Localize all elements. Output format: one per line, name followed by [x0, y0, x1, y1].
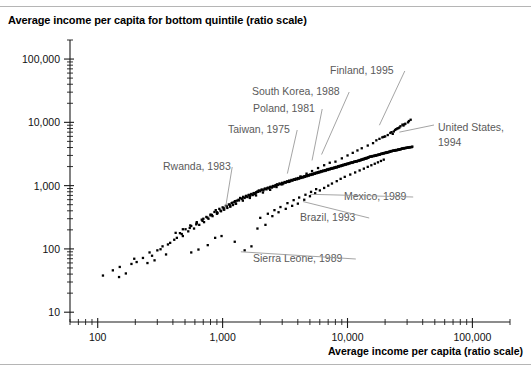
data-point	[195, 223, 197, 225]
data-point	[176, 237, 178, 239]
data-point	[255, 194, 257, 196]
data-point	[167, 243, 169, 245]
data-point	[247, 194, 249, 196]
data-point	[201, 220, 203, 222]
data-point	[209, 214, 211, 216]
data-point	[359, 169, 361, 171]
data-point	[187, 230, 189, 232]
data-point	[112, 269, 114, 271]
data-point	[410, 119, 412, 121]
data-point	[250, 245, 252, 247]
data-point	[356, 149, 358, 151]
data-point	[232, 204, 234, 206]
data-point	[156, 249, 158, 251]
data-point	[197, 248, 199, 250]
data-point	[371, 155, 373, 157]
data-point	[344, 176, 346, 178]
data-point	[383, 159, 385, 161]
data-point	[285, 208, 287, 210]
data-point	[374, 163, 376, 165]
data-point	[281, 183, 283, 185]
data-point	[331, 182, 333, 184]
data-point	[146, 262, 148, 264]
data-point	[340, 178, 342, 180]
data-point	[119, 266, 121, 268]
data-point	[375, 139, 377, 141]
data-point	[326, 169, 328, 171]
data-point	[151, 255, 153, 257]
data-point	[267, 213, 269, 215]
data-point	[403, 123, 405, 125]
data-point	[390, 150, 392, 152]
data-point	[305, 175, 307, 177]
data-point	[284, 181, 286, 183]
data-point	[260, 189, 262, 191]
data-point	[392, 133, 394, 135]
data-point	[262, 191, 264, 193]
data-point	[159, 248, 161, 250]
data-point	[153, 259, 155, 261]
data-point	[370, 164, 372, 166]
data-point	[369, 156, 371, 158]
data-point	[327, 185, 329, 187]
data-point	[238, 199, 240, 201]
data-point	[293, 199, 295, 201]
data-point	[407, 147, 409, 149]
annotation-label: South Korea, 1988	[252, 85, 340, 97]
data-point	[263, 188, 265, 190]
annotation-leader-line	[322, 92, 350, 155]
data-point	[249, 197, 251, 199]
data-point	[297, 203, 299, 205]
data-point	[102, 274, 104, 276]
data-point	[294, 178, 296, 180]
data-point	[383, 136, 385, 138]
data-point	[269, 189, 271, 191]
data-point	[136, 261, 138, 263]
data-point	[214, 237, 216, 239]
annotation-label: Poland, 1981	[253, 102, 315, 114]
data-point	[411, 146, 413, 148]
data-point	[303, 199, 305, 201]
data-point	[405, 147, 407, 149]
data-point	[334, 161, 336, 163]
data-point	[220, 235, 222, 237]
annotation-label: 1994	[438, 136, 462, 148]
annotation-label: Rwanda, 1983	[163, 160, 231, 172]
data-point	[206, 217, 208, 219]
data-point	[279, 183, 281, 185]
data-point	[133, 258, 135, 260]
data-point	[286, 202, 288, 204]
data-point	[273, 209, 275, 211]
data-point	[409, 146, 411, 148]
data-point	[367, 166, 369, 168]
data-point	[341, 157, 343, 159]
data-point	[190, 251, 192, 253]
annotation-leader-line	[379, 71, 404, 125]
y-tick-label: 10	[48, 306, 60, 318]
data-point	[304, 194, 306, 196]
data-point	[380, 160, 382, 162]
y-axis: 101001,00010,000100,000	[22, 40, 74, 322]
data-point	[242, 200, 244, 202]
data-point	[329, 162, 331, 164]
data-point	[323, 187, 325, 189]
data-point	[279, 206, 281, 208]
data-point	[354, 171, 356, 173]
data-point	[231, 202, 233, 204]
data-point	[298, 196, 300, 198]
data-point	[182, 228, 184, 230]
data-point	[317, 167, 319, 169]
data-point	[189, 227, 191, 229]
data-point	[250, 193, 252, 195]
data-point	[319, 189, 321, 191]
data-point	[398, 126, 400, 128]
data-point	[264, 224, 266, 226]
data-point	[378, 138, 380, 140]
data-point	[189, 224, 191, 226]
data-point	[241, 197, 243, 199]
data-point	[219, 209, 221, 211]
data-point	[361, 147, 363, 149]
data-point	[389, 132, 391, 134]
data-point	[234, 200, 236, 202]
data-point	[142, 257, 144, 259]
